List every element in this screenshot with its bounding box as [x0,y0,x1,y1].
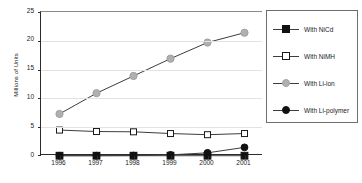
legend-entry[interactable]: With Li-polymer [267,103,357,117]
y-tick-mark [38,41,41,42]
y-tick-label: 10 [18,94,34,101]
data-point [241,29,248,36]
series-with-li-polymer [56,144,248,159]
legend-label: With NiMH [304,53,335,60]
y-tick-mark [38,155,41,156]
y-tick-label: 20 [18,36,34,43]
legend-entry[interactable]: With NiMH [267,49,357,63]
y-tick-mark [38,70,41,71]
series-line [60,33,245,114]
y-axis-tick-labels: 0510152025 [14,0,34,183]
gridline [41,70,262,71]
data-point [94,129,100,135]
legend-marker-icon [282,106,290,114]
legend-label: With NiCd [304,26,333,33]
y-tick-label: 0 [18,152,34,159]
x-tick-label: 2001 [229,160,259,167]
y-tick-label: 5 [18,123,34,130]
legend-entry[interactable]: With Li-ion [267,76,357,90]
legend-swatch [273,104,299,116]
gridline [41,98,262,99]
series-with-nimh [57,127,248,138]
gridline [41,127,262,128]
y-tick-label: 25 [18,8,34,15]
series-layer [41,12,263,156]
line-chart: Millions of Units 0510152025 19961997199… [0,0,362,183]
x-tick-label: 1999 [155,160,185,167]
legend-marker-icon [282,25,290,33]
legend-swatch [273,23,299,35]
data-point [167,55,174,62]
legend: With NiCdWith NiMHWith Li-ionWith Li-pol… [266,10,358,123]
legend-entry[interactable]: With NiCd [267,22,357,36]
data-point [93,90,100,97]
y-tick-mark [38,98,41,99]
legend-swatch [273,77,299,89]
series-line [60,147,245,155]
x-tick-label: 1996 [44,160,74,167]
data-point [242,131,248,137]
series-with-li-ion [56,29,248,117]
legend-swatch [273,50,299,62]
data-point [241,144,248,151]
legend-label: With Li-polymer [304,107,349,114]
legend-marker-icon [282,52,290,60]
x-tick-label: 2000 [192,160,222,167]
data-point [168,131,174,137]
y-tick-mark [38,127,41,128]
legend-label: With Li-ion [304,80,335,87]
legend-marker-icon [282,79,290,87]
data-point [130,72,137,79]
y-tick-label: 15 [18,65,34,72]
data-point [131,129,137,135]
x-tick-label: 1998 [118,160,148,167]
x-tick-label: 1997 [81,160,111,167]
gridline [41,41,262,42]
data-point [56,110,63,117]
y-tick-mark [38,12,41,13]
data-point [205,132,211,138]
plot-area [40,11,262,155]
series-line [60,130,245,135]
